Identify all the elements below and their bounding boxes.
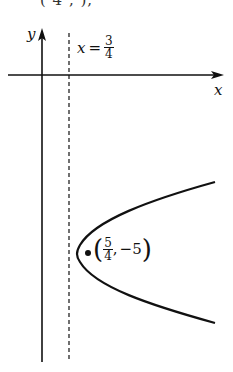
vertex-comma: , bbox=[113, 240, 118, 262]
vertex-point bbox=[85, 250, 91, 256]
diagram-canvas bbox=[0, 0, 233, 372]
vertex-open-paren: ( bbox=[93, 236, 103, 262]
vertex-y-value: −5 bbox=[120, 240, 142, 258]
vertex-x-denominator: 4 bbox=[103, 250, 113, 262]
directrix-fraction: 3 4 bbox=[104, 35, 114, 60]
vertex-label: ( 5 4 , −5 ) bbox=[93, 236, 152, 262]
vertex-close-paren: ) bbox=[142, 236, 152, 262]
directrix-label: x = 3 4 bbox=[77, 35, 114, 60]
x-axis-label: x bbox=[214, 83, 222, 98]
directrix-eq: = bbox=[88, 39, 101, 57]
vertex-x-fraction: 5 4 bbox=[103, 237, 113, 262]
directrix-denominator: 4 bbox=[104, 48, 114, 60]
vertex-x-numerator: 5 bbox=[103, 237, 113, 250]
y-axis-label: y bbox=[27, 27, 35, 42]
directrix-var: x bbox=[77, 39, 85, 57]
